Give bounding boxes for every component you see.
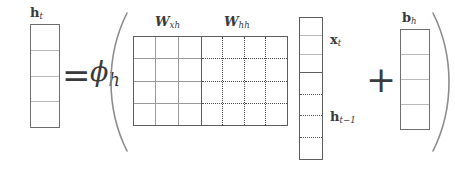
h-t-minus-1-label: ht−1 <box>330 110 356 123</box>
vector-cell <box>300 55 322 72</box>
matrix-column <box>202 37 223 125</box>
output-vector-label-subscript: t <box>39 11 43 21</box>
matrix-cell <box>266 37 287 59</box>
matrix-column <box>245 37 266 125</box>
vector-cell <box>300 116 322 138</box>
matrix-column <box>156 37 178 125</box>
matrix-cell <box>179 104 201 125</box>
matrix-column <box>223 37 244 125</box>
close-paren-icon <box>430 11 452 153</box>
matrix-cell <box>156 59 177 81</box>
matrix-column <box>179 37 201 125</box>
open-paren-icon <box>108 11 130 153</box>
xt-label-subscript: t <box>338 38 342 48</box>
matrix-column <box>266 37 287 125</box>
vector-cell <box>300 73 322 95</box>
matrix-cell <box>179 82 201 104</box>
vector-cell <box>31 51 59 77</box>
matrix-cell <box>266 82 287 104</box>
vector-cell <box>401 55 429 80</box>
matrix-cell <box>202 59 222 81</box>
weight-block-whh <box>202 37 287 125</box>
wxh-label-subscript: xh <box>170 20 181 30</box>
whh-label: Whh <box>224 15 250 28</box>
vector-cell <box>31 25 59 51</box>
input-stack-vector <box>299 17 323 160</box>
plus-operator: + <box>366 62 396 98</box>
vector-cell <box>401 80 429 105</box>
matrix-cell <box>202 37 222 59</box>
matrix-cell <box>156 37 177 59</box>
bias-vector-label-base: b <box>402 10 411 25</box>
activation-base: ϕ <box>90 56 108 87</box>
bias-vector-b-h <box>400 29 430 130</box>
matrix-column <box>134 37 156 125</box>
matrix-cell <box>134 59 155 81</box>
vector-cell <box>300 138 322 159</box>
xt-label-base: x <box>330 32 338 47</box>
output-vector-label: ht <box>30 6 43 19</box>
whh-label-base: W <box>224 14 239 29</box>
matrix-cell <box>245 104 265 125</box>
equals-operator: = <box>62 58 91 92</box>
vector-cell <box>31 77 59 103</box>
output-vector-h-t <box>30 24 60 128</box>
vector-cell <box>300 36 322 54</box>
vector-cell <box>300 18 322 36</box>
matrix-cell <box>202 104 222 125</box>
matrix-cell <box>134 37 155 59</box>
matrix-cell <box>179 37 201 59</box>
equation-diagram: ht = ϕh Wxh Whh <box>0 0 455 174</box>
vector-cell <box>401 105 429 129</box>
h-t-minus-1-label-subscript: t−1 <box>339 115 355 125</box>
matrix-cell <box>223 37 243 59</box>
bias-vector-label-subscript: h <box>411 16 417 26</box>
matrix-cell <box>266 104 287 125</box>
weight-matrix <box>133 36 288 126</box>
matrix-cell <box>245 59 265 81</box>
matrix-cell <box>134 104 155 125</box>
vector-cell <box>31 102 59 127</box>
whh-label-subscript: hh <box>239 20 250 30</box>
matrix-cell <box>245 37 265 59</box>
matrix-cell <box>266 59 287 81</box>
matrix-cell <box>223 104 243 125</box>
bias-vector-label: bh <box>402 11 417 24</box>
input-segment-h-t-minus-1 <box>300 73 322 159</box>
matrix-cell <box>245 82 265 104</box>
matrix-cell <box>179 59 201 81</box>
xt-label: xt <box>330 33 341 46</box>
wxh-label-base: W <box>155 14 170 29</box>
wxh-label: Wxh <box>155 15 180 28</box>
matrix-cell <box>202 82 222 104</box>
vector-cell <box>300 95 322 117</box>
matrix-cell <box>134 82 155 104</box>
weight-block-wxh <box>134 37 202 125</box>
matrix-cell <box>156 82 177 104</box>
input-segment-xt <box>300 18 322 73</box>
matrix-cell <box>156 104 177 125</box>
vector-cell <box>401 30 429 55</box>
matrix-cell <box>223 82 243 104</box>
matrix-cell <box>223 59 243 81</box>
